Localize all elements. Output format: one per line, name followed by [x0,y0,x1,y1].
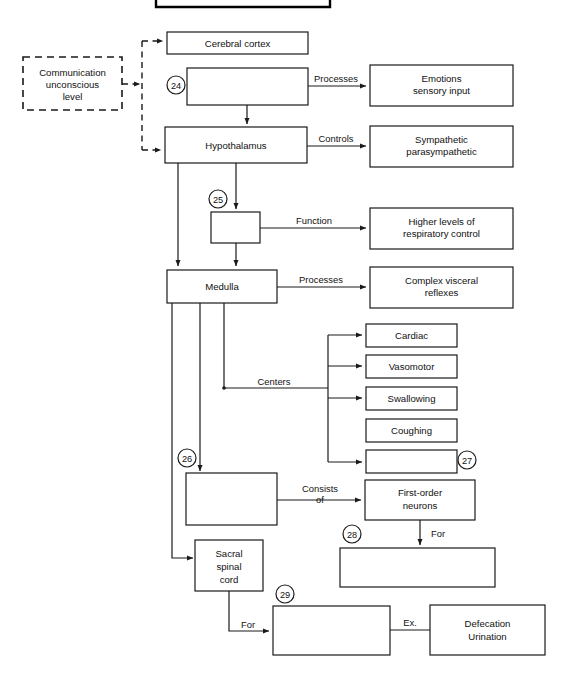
top-cropped-box [156,0,330,7]
cerebral-cortex-label: Cerebral cortex [205,38,271,49]
sacral-line-3: cord [220,574,239,585]
swallowing-label: Swallowing [388,393,436,404]
sympathetic-line-2: parasympathetic [406,146,477,157]
medulla-label: Medulla [205,281,239,292]
flowchart-svg: Communication unconscious level Cerebral… [0,0,562,679]
visceral-line-1: Complex visceral [405,275,478,286]
number-28: 28 [347,530,357,540]
communication-line-2: unconscious [46,79,100,90]
defecation-line-1: Defecation [465,618,511,629]
node-blank-26[interactable] [186,473,277,525]
node-blank-29[interactable] [273,606,390,655]
vasomotor-label: Vasomotor [389,361,435,372]
emotions-line-1: Emotions [422,73,462,84]
hypothalamus-label: Hypothalamus [205,140,267,151]
node-blank-28[interactable] [340,548,495,587]
edge-label-ex: Ex. [403,617,417,628]
visceral-line-2: reflexes [425,287,459,298]
communication-line-3: level [63,91,83,102]
first-order-line-2: neurons [403,500,438,511]
number-24: 24 [171,81,181,91]
higher-levels-line-1: Higher levels of [408,216,474,227]
number-26: 26 [182,454,192,464]
edge-label-processes-1: Processes [314,73,358,84]
defecation-line-2: Urination [468,631,506,642]
edge-label-controls: Controls [319,133,354,144]
communication-line-1: Communication [39,67,106,78]
edge-label-processes-2: Processes [299,274,343,285]
edge-label-centers: Centers [258,376,291,387]
sacral-line-2: spinal [216,561,241,572]
number-25: 25 [213,195,223,205]
sympathetic-line-1: Sympathetic [415,134,468,145]
node-blank-25[interactable] [211,212,260,243]
first-order-line-1: First-order [398,487,443,498]
node-blank-27[interactable] [366,450,457,473]
sacral-line-1: Sacral [215,548,242,559]
edge-label-consists-of: of [316,494,324,505]
edge-label-consists: Consists [302,483,338,494]
number-29: 29 [280,590,290,600]
cardiac-label: Cardiac [395,330,428,341]
emotions-line-2: sensory input [413,85,470,96]
node-defecation-urination[interactable] [430,605,545,655]
edge-label-for-1: For [431,528,445,539]
centers-junction-dot [222,386,226,390]
number-27: 27 [462,456,472,466]
coughing-label: Coughing [391,425,432,436]
diagram-canvas: Communication unconscious level Cerebral… [0,0,562,679]
node-blank-24[interactable] [187,68,308,105]
edge-label-function: Function [296,215,332,226]
edge-label-for-2: For [241,619,255,630]
higher-levels-line-2: respiratory control [403,228,480,239]
